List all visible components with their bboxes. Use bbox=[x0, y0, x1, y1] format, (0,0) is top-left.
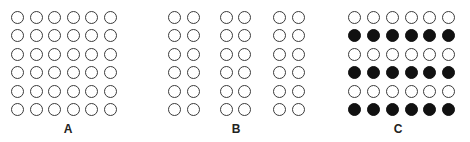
open-circle bbox=[405, 11, 418, 24]
filled-circle bbox=[348, 66, 361, 79]
filled-circle bbox=[367, 103, 380, 116]
open-circle bbox=[367, 11, 380, 24]
filled-circle bbox=[348, 29, 361, 42]
open-circle bbox=[48, 85, 61, 98]
open-circle bbox=[292, 85, 305, 98]
open-circle bbox=[187, 103, 200, 116]
open-circle bbox=[367, 85, 380, 98]
open-circle bbox=[273, 103, 286, 116]
open-circle bbox=[348, 48, 361, 61]
open-circle bbox=[348, 11, 361, 24]
open-circle bbox=[442, 11, 455, 24]
open-circle bbox=[187, 85, 200, 98]
open-circle bbox=[442, 48, 455, 61]
open-circle bbox=[48, 48, 61, 61]
open-circle bbox=[238, 85, 251, 98]
panel-a-label: A bbox=[64, 122, 73, 136]
open-circle bbox=[238, 48, 251, 61]
open-circle bbox=[238, 66, 251, 79]
open-circle bbox=[30, 29, 43, 42]
open-circle bbox=[85, 85, 98, 98]
open-circle bbox=[30, 11, 43, 24]
open-circle bbox=[187, 66, 200, 79]
open-circle bbox=[168, 11, 181, 24]
open-circle bbox=[67, 103, 80, 116]
open-circle bbox=[11, 11, 24, 24]
open-circle bbox=[348, 85, 361, 98]
open-circle bbox=[238, 11, 251, 24]
filled-circle bbox=[348, 103, 361, 116]
open-circle bbox=[442, 85, 455, 98]
open-circle bbox=[386, 48, 399, 61]
open-circle bbox=[423, 48, 436, 61]
filled-circle bbox=[423, 29, 436, 42]
open-circle bbox=[85, 29, 98, 42]
filled-circle bbox=[405, 29, 418, 42]
open-circle bbox=[405, 48, 418, 61]
open-circle bbox=[238, 103, 251, 116]
filled-circle bbox=[442, 66, 455, 79]
open-circle bbox=[273, 29, 286, 42]
panel-b-label: B bbox=[232, 122, 241, 136]
open-circle bbox=[30, 48, 43, 61]
open-circle bbox=[48, 66, 61, 79]
open-circle bbox=[367, 48, 380, 61]
open-circle bbox=[67, 48, 80, 61]
open-circle bbox=[292, 48, 305, 61]
open-circle bbox=[220, 48, 233, 61]
filled-circle bbox=[423, 103, 436, 116]
open-circle bbox=[11, 103, 24, 116]
open-circle bbox=[168, 85, 181, 98]
open-circle bbox=[220, 11, 233, 24]
open-circle bbox=[405, 85, 418, 98]
dot-pattern-figure: A B C bbox=[0, 0, 470, 142]
open-circle bbox=[85, 66, 98, 79]
open-circle bbox=[104, 29, 117, 42]
filled-circle bbox=[405, 66, 418, 79]
open-circle bbox=[67, 11, 80, 24]
open-circle bbox=[67, 66, 80, 79]
filled-circle bbox=[442, 29, 455, 42]
open-circle bbox=[104, 103, 117, 116]
filled-circle bbox=[423, 66, 436, 79]
open-circle bbox=[48, 103, 61, 116]
open-circle bbox=[104, 85, 117, 98]
open-circle bbox=[273, 85, 286, 98]
open-circle bbox=[30, 85, 43, 98]
filled-circle bbox=[367, 29, 380, 42]
open-circle bbox=[67, 29, 80, 42]
filled-circle bbox=[367, 66, 380, 79]
open-circle bbox=[292, 66, 305, 79]
open-circle bbox=[67, 85, 80, 98]
filled-circle bbox=[386, 29, 399, 42]
open-circle bbox=[11, 29, 24, 42]
open-circle bbox=[273, 11, 286, 24]
open-circle bbox=[11, 48, 24, 61]
open-circle bbox=[168, 29, 181, 42]
open-circle bbox=[85, 48, 98, 61]
open-circle bbox=[30, 66, 43, 79]
open-circle bbox=[273, 66, 286, 79]
open-circle bbox=[238, 29, 251, 42]
open-circle bbox=[220, 85, 233, 98]
open-circle bbox=[386, 11, 399, 24]
open-circle bbox=[104, 66, 117, 79]
filled-circle bbox=[442, 103, 455, 116]
open-circle bbox=[168, 66, 181, 79]
open-circle bbox=[187, 29, 200, 42]
open-circle bbox=[11, 85, 24, 98]
open-circle bbox=[220, 29, 233, 42]
open-circle bbox=[292, 11, 305, 24]
open-circle bbox=[104, 48, 117, 61]
open-circle bbox=[423, 85, 436, 98]
open-circle bbox=[423, 11, 436, 24]
open-circle bbox=[104, 11, 117, 24]
open-circle bbox=[292, 103, 305, 116]
open-circle bbox=[187, 11, 200, 24]
open-circle bbox=[48, 29, 61, 42]
open-circle bbox=[386, 85, 399, 98]
open-circle bbox=[168, 103, 181, 116]
open-circle bbox=[168, 48, 181, 61]
open-circle bbox=[30, 103, 43, 116]
panel-c-label: C bbox=[394, 122, 403, 136]
